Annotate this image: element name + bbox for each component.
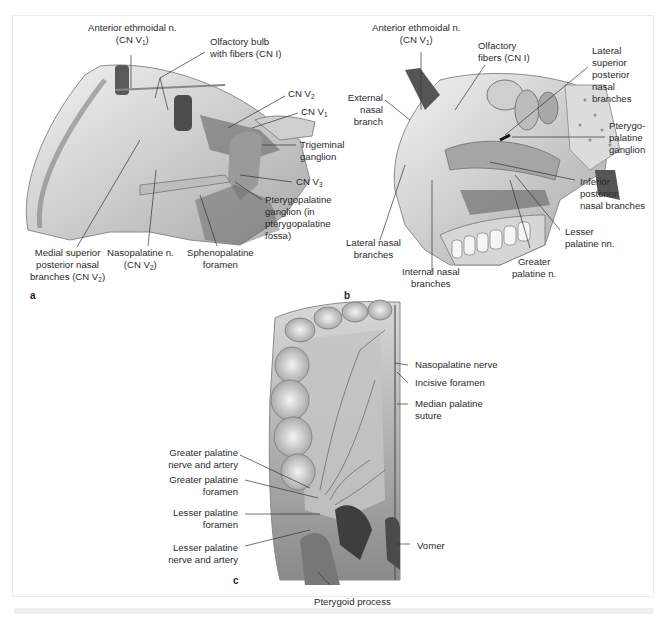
label-nasopalatine-nerve: Nasopalatine nerve [415,359,498,371]
label-lesser-palatine-nerve-artery: Lesser palatine nerve and artery [150,542,238,566]
label-cn-v1-a-text: (CN V [116,34,142,45]
label-lateral-nasal-branches: Lateral nasal branches [346,237,401,261]
label-nasopalatine-a: Nasopalatine n. (CN V2) [107,247,174,271]
label-greater-palatine-n: Greater palatine n. [512,256,556,280]
label-lesser-palatine-nn: Lesser palatine nn. [565,226,615,250]
label-pterygoid-process: Pterygoid process [314,596,391,608]
label-anterior-ethmoidal-b: Anterior ethmoidal n. (CN V1) [372,22,461,46]
label-olfactory-fibers: Olfactory fibers (CN I) [478,40,530,64]
label-external-nasal-branch: External nasal branch [343,92,383,128]
label-cn-v3: CN V3 [296,176,323,188]
label-internal-nasal-branches: Internal nasal branches [402,266,460,290]
label-olfactory-bulb: Olfactory bulb with fibers (CN I) [210,36,281,60]
label-incisive-foramen: Incisive foramen [415,377,485,389]
label-pterygopalatine-ganglion-a: Pterygopalatine ganglion (in pterygopala… [265,194,332,242]
label-sphenopalatine-foramen: Sphenopalatine foramen [187,247,254,271]
label-lesser-palatine-foramen: Lesser palatine foramen [150,507,238,531]
label-inferior-posterior-nasal: Inferior posterior nasal branches [580,176,645,212]
label-pterygopalatine-ganglion-b: Pterygo- palatine ganglion [609,120,645,156]
anatomy-illustrations [0,0,665,626]
label-cn-v2: CN V2 [288,88,315,100]
figure-caption-cutoff [14,608,654,614]
label-median-palatine-suture: Median palatine suture [415,398,483,422]
panel-letter-a: a [30,290,36,301]
label-trigeminal-ganglion: Trigeminal ganglion [300,139,344,163]
label-vomer: Vomer [417,540,445,552]
label-greater-palatine-foramen: Greater palatine foramen [150,474,238,498]
label-cn-v1: CN V1 [301,106,328,118]
label-greater-palatine-nerve-artery: Greater palatine nerve and artery [150,447,238,471]
label-medial-superior-posterior: Medial superior posterior nasal branches… [30,247,105,283]
panel-letter-c: c [233,575,239,586]
label-anterior-ethmoidal-a: Anterior ethmoidal n. (CN V1) [88,22,177,46]
panel-letter-b: b [344,290,350,301]
label-lateral-superior-posterior: Lateral superior posterior nasal branche… [592,45,631,105]
panel-c-illustration [269,300,400,585]
